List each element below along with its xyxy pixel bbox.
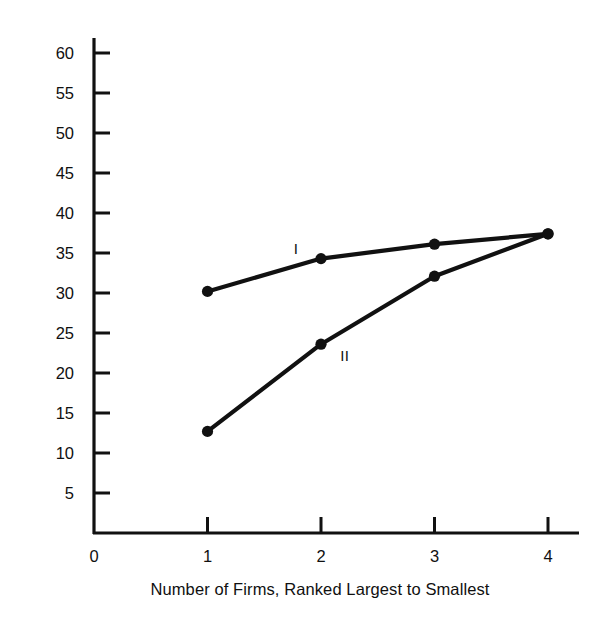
chart-figure: Cumulative Percent of Shipments Number o… (0, 0, 599, 628)
axis-lines (93, 38, 579, 534)
data-point-marker (202, 426, 213, 437)
data-point-marker (429, 271, 440, 282)
data-point-marker (429, 239, 440, 250)
data-point-marker (315, 339, 326, 350)
y-tick-marks (94, 53, 110, 493)
series-markers (202, 228, 554, 437)
series-line-I (208, 234, 549, 292)
x-tick-marks (208, 517, 549, 533)
data-point-marker (315, 253, 326, 264)
data-point-marker (202, 286, 213, 297)
plot-area (0, 0, 599, 628)
data-point-marker (542, 228, 553, 239)
series-line-II (208, 234, 549, 432)
series-lines (208, 234, 549, 432)
